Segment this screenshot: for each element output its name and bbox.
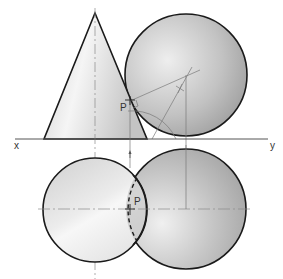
arrow-head-up — [129, 150, 132, 154]
label-p-elevation: P — [120, 103, 127, 113]
label-x: x — [14, 141, 19, 151]
label-y: y — [270, 141, 275, 151]
plan-view — [38, 145, 252, 269]
diagram-svg — [0, 0, 283, 279]
label-p-plan: P — [134, 197, 141, 207]
projection-diagram: x y P P — [0, 0, 283, 279]
